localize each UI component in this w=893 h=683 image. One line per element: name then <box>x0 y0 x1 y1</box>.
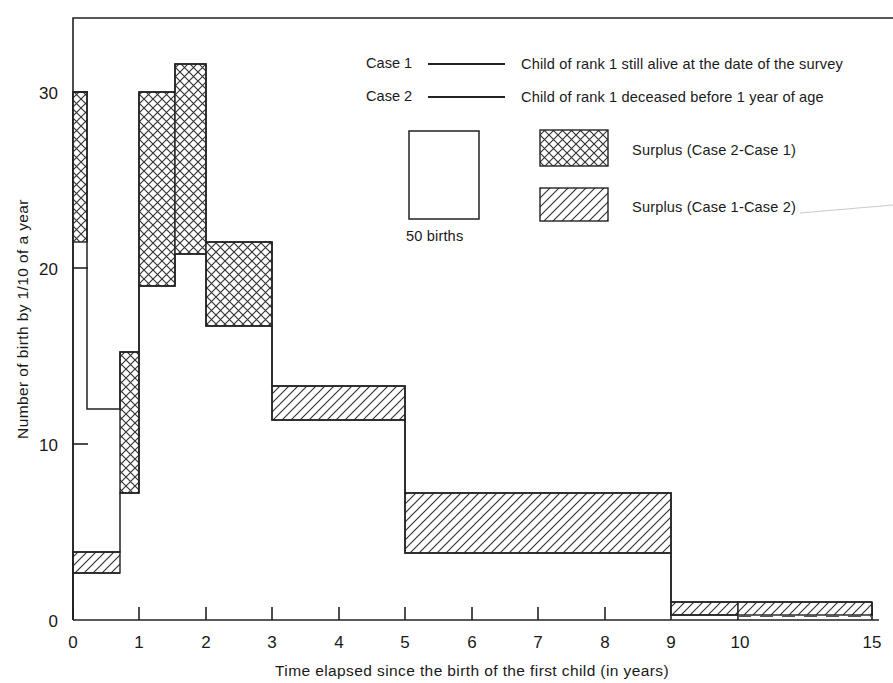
legend-case-rows: Case 1 Child of rank 1 still alive at th… <box>366 55 843 105</box>
legend-swatch-rows: Surplus (Case 2-Case 1) Surplus (Case 1-… <box>540 130 893 221</box>
band-diag-4 <box>738 602 872 615</box>
legend-swatch-diag-label: Surplus (Case 1-Case 2) <box>632 199 796 215</box>
band-cross-0 <box>73 92 87 242</box>
x-tick-label-4: 4 <box>334 633 343 652</box>
y-tick-label-0: 0 <box>49 612 58 631</box>
legend-case2-key: Case 2 <box>366 88 412 104</box>
legend-case1-text: Child of rank 1 still alive at the date … <box>521 56 843 72</box>
x-tick-label-9: 9 <box>666 633 675 652</box>
x-tick-label-2: 2 <box>201 633 210 652</box>
y-axis-title: Number of birth by 1/10 of a year <box>14 199 31 439</box>
x-tick-label-7: 7 <box>533 633 542 652</box>
case1-step-outline <box>73 254 738 620</box>
band-diag-0 <box>73 552 120 573</box>
x-tick-labels: 0 1 2 3 4 5 6 7 8 9 10 15 <box>68 633 881 652</box>
surplus-case1-over-case2-bands <box>73 386 872 615</box>
legend-swatch-cross-label: Surplus (Case 2-Case 1) <box>632 142 796 158</box>
scale-key-label: 50 births <box>406 228 463 244</box>
legend-scale-key: 50 births <box>406 131 479 244</box>
legend-swatch-cross <box>540 130 608 166</box>
legend-swatch-diag <box>540 188 608 221</box>
x-tick-label-0: 0 <box>68 633 77 652</box>
y-tick-labels: 30 20 10 0 <box>39 84 58 631</box>
x-axis-title: Time elapsed since the birth of the firs… <box>275 662 669 679</box>
chart-figure: 30 20 10 0 0 1 2 3 4 5 6 7 8 9 10 15 Tim… <box>0 0 893 683</box>
surplus-case2-over-case1-bands <box>73 64 272 493</box>
scale-key-box <box>409 131 479 219</box>
chart-svg: 30 20 10 0 0 1 2 3 4 5 6 7 8 9 10 15 Tim… <box>0 0 893 683</box>
band-diag-3 <box>671 602 738 615</box>
y-tick-label-20: 20 <box>39 260 58 279</box>
band-diag-2 <box>405 493 671 553</box>
x-tick-label-6: 6 <box>467 633 476 652</box>
legend-case1-key: Case 1 <box>366 55 412 71</box>
band-cross-3 <box>175 64 206 254</box>
band-cross-4 <box>206 242 272 326</box>
x-tick-label-15: 15 <box>863 633 882 652</box>
x-tick-label-8: 8 <box>600 633 609 652</box>
band-cross-1 <box>120 352 139 493</box>
legend-case2-text: Child of rank 1 deceased before 1 year o… <box>521 89 824 105</box>
band-diag-1 <box>272 386 405 420</box>
legend-hairline <box>800 205 893 213</box>
y-tick-label-30: 30 <box>39 84 58 103</box>
x-tick-label-5: 5 <box>400 633 409 652</box>
x-tick-label-10: 10 <box>731 633 750 652</box>
band-cross-2 <box>139 92 175 286</box>
y-tick-label-10: 10 <box>39 436 58 455</box>
x-tick-label-1: 1 <box>134 633 143 652</box>
x-tick-label-3: 3 <box>267 633 276 652</box>
